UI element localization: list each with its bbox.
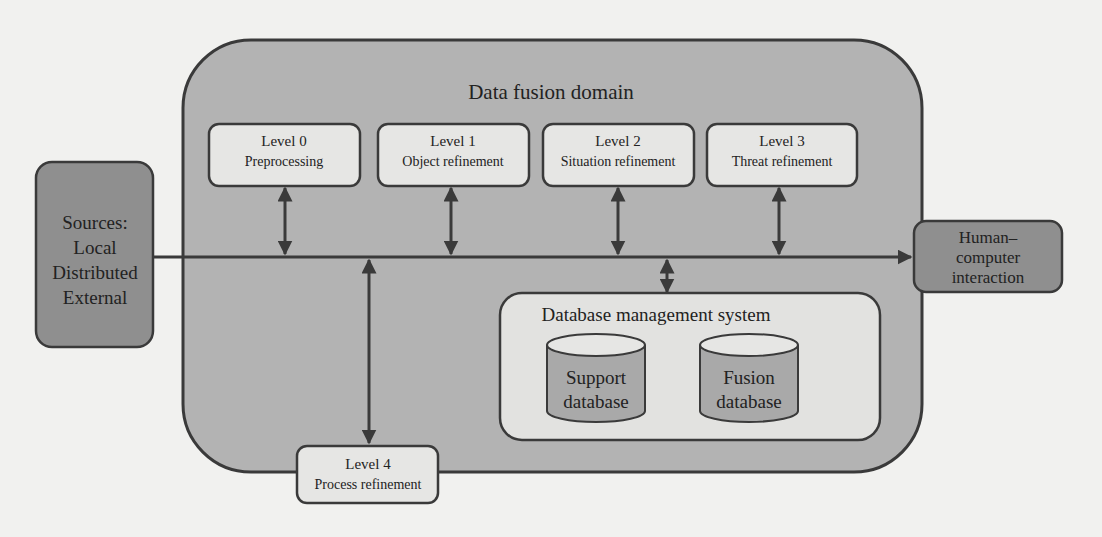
- support-db-line-1: Support: [566, 367, 627, 388]
- level-3-box: Level 3 Threat refinement: [707, 124, 857, 186]
- level-2-box: Level 2 Situation refinement: [543, 124, 694, 186]
- sources-label: Sources:: [62, 212, 127, 233]
- fusion-db-line-2: database: [716, 391, 781, 412]
- level-4-box: Level 4 Process refinement: [297, 446, 438, 503]
- level-1-subtitle: Object refinement: [402, 154, 504, 169]
- fusion-db-line-1: Fusion: [723, 367, 775, 388]
- sources-local: Local: [73, 237, 116, 258]
- sources-external: External: [63, 287, 127, 308]
- domain-title: Data fusion domain: [468, 80, 634, 104]
- dbms-box: Database management system Support datab…: [500, 293, 880, 440]
- sources-box: Sources: Local Distributed External: [36, 162, 153, 347]
- hci-line-1: Human–: [959, 228, 1018, 247]
- support-database-icon: Support database: [547, 334, 645, 422]
- level-2-title: Level 2: [595, 133, 640, 149]
- level-0-box: Level 0 Preprocessing: [209, 124, 360, 186]
- level-0-title: Level 0: [261, 133, 306, 149]
- fusion-diagram: Data fusion domain Sources: Local Distri…: [0, 0, 1102, 537]
- level-4-subtitle: Process refinement: [315, 477, 422, 492]
- level-2-subtitle: Situation refinement: [561, 154, 676, 169]
- level-1-title: Level 1: [430, 133, 475, 149]
- level-3-title: Level 3: [759, 133, 804, 149]
- hci-box: Human– computer interaction: [914, 221, 1062, 292]
- level-0-subtitle: Preprocessing: [245, 154, 324, 169]
- hci-line-2: computer: [956, 248, 1021, 267]
- support-db-line-2: database: [563, 391, 628, 412]
- sources-distributed: Distributed: [52, 262, 138, 283]
- fusion-database-icon: Fusion database: [700, 334, 798, 422]
- dbms-title: Database management system: [542, 304, 771, 325]
- level-1-box: Level 1 Object refinement: [378, 124, 529, 186]
- level-3-subtitle: Threat refinement: [732, 154, 833, 169]
- level-4-title: Level 4: [345, 456, 391, 472]
- hci-line-3: interaction: [952, 268, 1025, 287]
